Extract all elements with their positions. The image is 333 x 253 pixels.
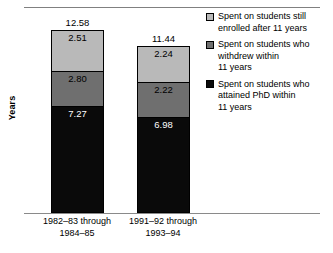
legend-item-withdrew[interactable]: Spent on students who withdrew within 11… [206,39,330,74]
legend-item-still-enrolled[interactable]: Spent on students still enrolled after 1… [206,11,330,34]
segment-value: 7.27 [68,107,87,119]
legend-label-line-3: 11 years [218,62,330,74]
legend-label-line-1: Spent on students who [218,79,330,91]
legend-item-attained-phd[interactable]: Spent on students who attained PhD withi… [206,79,330,114]
bar-total-label: 12.58 [51,17,104,28]
x-tick-label-1: 1982–83 through 1984–85 [27,216,127,239]
bar-segment-still-enrolled[interactable]: 2.24 [138,47,189,82]
legend-label-line-2: attained PhD within [218,90,330,102]
legend-label-line-3: 11 years [218,102,330,114]
segment-value: 2.24 [154,47,173,59]
legend-swatch-black-icon [206,80,214,88]
bar-segment-attained-phd[interactable]: 6.98 [138,118,189,212]
legend-swatch-light-gray-icon [206,13,214,21]
stacked-bar-chart: Years 12.58 2.51 2.80 7.27 11.44 2.24 [0,0,333,253]
legend-label-line-1: Spent on students who [218,39,330,51]
chart-legend: Spent on students still enrolled after 1… [206,11,330,118]
segment-value: 2.80 [68,72,87,84]
stacked-bar-1[interactable]: 2.51 2.80 7.27 [51,30,104,213]
legend-swatch-medium-gray-icon [206,41,214,49]
x-tick-line-1: 1982–83 through [43,216,111,226]
segment-value: 2.22 [154,83,173,95]
bar-segment-withdrew[interactable]: 2.80 [52,72,103,106]
legend-label-line-2: enrolled after 11 years [218,23,330,35]
x-tick-line-1: 1991–92 through [129,216,197,226]
bar-segment-still-enrolled[interactable]: 2.51 [52,31,103,71]
legend-label-line-1: Spent on students still [218,11,330,23]
x-tick-label-2: 1991–92 through 1993–94 [113,216,213,239]
segment-value: 6.98 [154,118,173,130]
x-tick-line-2: 1993–94 [145,228,180,238]
bar-segment-withdrew[interactable]: 2.22 [138,83,189,117]
legend-label-line-2: withdrew within [218,51,330,63]
segment-value: 2.51 [68,31,87,43]
x-tick-line-2: 1984–85 [59,228,94,238]
stacked-bar-2[interactable]: 2.24 2.22 6.98 [137,46,190,213]
bar-total-label: 11.44 [137,33,190,44]
bar-segment-attained-phd[interactable]: 7.27 [52,107,103,212]
